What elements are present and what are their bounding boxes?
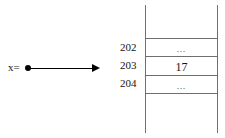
memory-address-label: 202: [120, 41, 146, 54]
memory-row-divider: [145, 56, 218, 57]
memory-address-label: 203: [120, 59, 146, 72]
pointer-variable-group: x=: [0, 0, 120, 138]
memory-row-divider: [145, 75, 218, 76]
memory-row-divider: [145, 38, 218, 39]
diagram-canvas: x= 202 203 204 … 17 …: [0, 0, 225, 138]
pointer-variable-label: x=: [8, 61, 20, 74]
pointer-arrowhead-icon: [92, 64, 100, 72]
memory-address-label: 204: [120, 77, 146, 90]
memory-cell-value: 17: [145, 61, 218, 73]
memory-cell-value: …: [145, 80, 218, 92]
memory-row-divider: [145, 93, 218, 94]
memory-table: 202 203 204 … 17 …: [118, 0, 225, 138]
pointer-arrow-shaft: [30, 68, 94, 69]
memory-cell-value: …: [145, 43, 218, 55]
